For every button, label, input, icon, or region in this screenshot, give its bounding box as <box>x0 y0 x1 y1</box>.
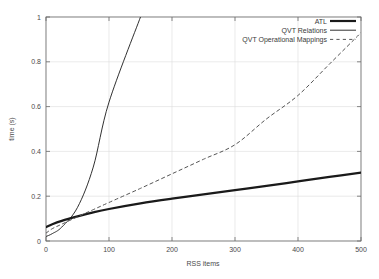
chart-container: 0100200300400500 00.20.40.60.81 RSS item… <box>0 0 379 279</box>
y-tick-label: 0.2 <box>31 193 41 200</box>
legend-label-0: ATL <box>315 18 327 25</box>
y-tick-label: 0.6 <box>31 103 41 110</box>
legend-label-2: QVT Operational Mappings <box>242 36 327 44</box>
y-axis-title: time (s) <box>8 117 16 140</box>
x-tick-label: 200 <box>166 246 178 253</box>
x-tick-label: 0 <box>44 246 48 253</box>
x-tick-label: 300 <box>229 246 241 253</box>
x-tick-label: 400 <box>292 246 304 253</box>
legend-label-1: QVT Relations <box>282 27 328 35</box>
chart-svg: 0100200300400500 00.20.40.60.81 RSS item… <box>0 0 379 279</box>
y-tick-label: 1 <box>37 14 41 21</box>
x-axis-title: RSS items <box>186 260 220 267</box>
y-tick-label: 0.8 <box>31 58 41 65</box>
x-tick-label: 500 <box>355 246 367 253</box>
y-tick-label: 0.4 <box>31 148 41 155</box>
x-tick-label: 100 <box>103 246 115 253</box>
y-tick-label: 0 <box>37 238 41 245</box>
